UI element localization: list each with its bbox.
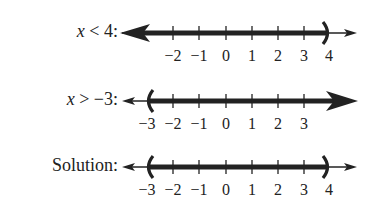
svg-text:−2: −2 [164, 47, 181, 64]
svg-text:−1: −1 [190, 181, 207, 198]
tick-labels-1: −2 −1 0 1 2 3 4 [164, 47, 333, 64]
number-lines: −2 −1 0 1 2 3 4 −3 −2 −1 0 1 2 3 [0, 0, 378, 203]
number-line-3 [122, 156, 357, 178]
svg-text:−1: −1 [190, 115, 207, 132]
tick-labels-3: −3 −2 −1 0 1 2 3 4 [138, 181, 333, 198]
number-line-1 [120, 22, 357, 44]
number-line-2 [122, 90, 358, 112]
svg-text:−3: −3 [138, 181, 155, 198]
svg-text:−2: −2 [164, 115, 181, 132]
svg-text:2: 2 [274, 115, 282, 132]
svg-text:2: 2 [274, 181, 282, 198]
tick-labels-2: −3 −2 −1 0 1 2 3 [138, 115, 308, 132]
svg-text:4: 4 [325, 47, 333, 64]
svg-text:−2: −2 [164, 181, 181, 198]
svg-text:0: 0 [222, 115, 230, 132]
svg-text:0: 0 [222, 47, 230, 64]
svg-text:−1: −1 [190, 47, 207, 64]
svg-text:3: 3 [300, 115, 308, 132]
svg-text:1: 1 [248, 115, 256, 132]
svg-text:0: 0 [222, 181, 230, 198]
svg-text:1: 1 [248, 47, 256, 64]
svg-text:1: 1 [248, 181, 256, 198]
svg-text:2: 2 [274, 47, 282, 64]
svg-text:3: 3 [300, 181, 308, 198]
svg-text:3: 3 [300, 47, 308, 64]
svg-text:4: 4 [325, 181, 333, 198]
svg-text:−3: −3 [138, 115, 155, 132]
